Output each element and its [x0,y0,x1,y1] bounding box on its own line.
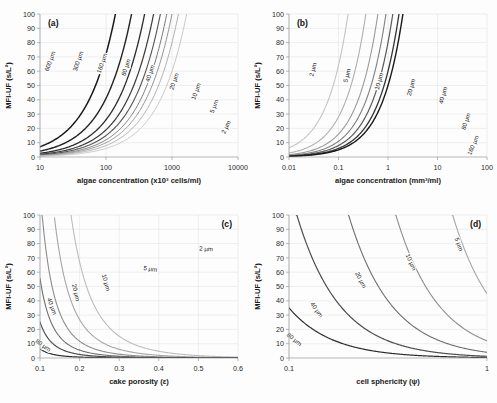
svg-text:20 µm: 20 µm [405,78,416,97]
y-tick-label: 10 [27,138,35,147]
curve-label-a-8: 2 µm2 µm [220,119,232,135]
y-tick-label: 30 [276,110,284,119]
x-axis-title: algae concentration (x10³ cells/ml) [77,176,202,185]
y-tick-label: 100 [23,211,35,220]
y-tick-label: 70 [27,254,35,263]
y-tick-label: 40 [27,296,35,305]
curve-group [40,8,188,156]
svg-text:2 µm: 2 µm [220,119,232,135]
y-tick-label: 20 [27,325,35,334]
y-tick-label: 0 [280,354,284,363]
x-tick-label: 10000 [228,163,248,172]
y-tick-label: 0 [31,153,35,162]
chart-panel-a: 600 µm600 µm300 µm300 µm160 µm160 µm80 µ… [0,0,248,201]
y-tick-label: 90 [27,225,35,234]
chart-a: 600 µm600 µm300 µm300 µm160 µm160 µm80 µ… [0,0,248,201]
y-tick-label: 60 [276,67,284,76]
x-axis-title: algae concentration (mm³/ml) [335,176,441,185]
y-axis-title: MFI-UF (s/L²) [4,263,13,310]
curve-label-b-5: 80 µm80 µm [460,112,472,131]
y-tick-label: 100 [272,211,284,220]
svg-text:10 µm: 10 µm [373,72,384,91]
svg-text:80 µm: 80 µm [120,58,132,77]
x-tick-label: 1000 [164,163,180,172]
svg-text:40 µm: 40 µm [309,300,325,318]
svg-text:5 µm: 5 µm [208,98,220,113]
curve-label-a-3: 80 µm80 µm [120,58,132,77]
x-tick-label: 1 [386,163,390,172]
x-tick-label: 0.5 [193,364,203,373]
curve-a-4 [40,10,161,154]
y-tick-label: 70 [276,254,284,263]
curve-label-b-4: 40 µm40 µm [437,86,448,105]
y-tick-label: 10 [27,339,35,348]
x-tick-label: 0.01 [282,163,296,172]
curve-label-a-1: 300 µm300 µm [71,50,84,72]
curve-label-c-1: 5 µm5 µm [143,264,158,273]
panel-letter-b: (b) [297,18,308,28]
y-tick-label: 50 [276,282,284,291]
curve-c-1 [55,218,238,358]
curve-b-1 [289,9,367,154]
y-tick-label: 30 [276,311,284,320]
curve-a-5 [40,12,167,155]
y-tick-label: 0 [280,153,284,162]
svg-text:5 µm: 5 µm [454,236,465,251]
curve-label-a-6: 10 µm10 µm [189,82,201,101]
curve-label-c-2: 10 µm10 µm [101,273,112,292]
y-tick-label: 50 [27,81,35,90]
x-tick-label: 100 [481,163,493,172]
curve-d-1 [395,215,487,341]
x-tick-label: 10 [36,163,44,172]
chart-panel-b: 2 µm2 µm5 µm5 µm10 µm10 µm20 µm20 µm40 µ… [249,0,497,201]
chart-panel-d: 5 µm5 µm10 µm10 µm20 µm20 µm40 µm40 µm80… [249,201,497,402]
y-tick-label: 100 [23,10,35,19]
y-tick-label: 90 [276,225,284,234]
curve-label-d-0: 5 µm5 µm [454,236,465,251]
y-tick-label: 80 [27,239,35,248]
chart-panel-c: 2 µm2 µm5 µm5 µm10 µm10 µm20 µm20 µm40 µ… [0,201,248,402]
svg-text:20 µm: 20 µm [71,283,82,301]
y-tick-label: 40 [276,95,284,104]
svg-text:2 µm: 2 µm [307,62,317,77]
curve-label-b-6: 160 µm160 µm [465,134,480,156]
y-axis-title: MFI-UF (s/L²) [253,263,262,310]
curve-label-a-0: 600 µm600 µm [43,50,57,72]
curve-label-b-2: 10 µm10 µm [373,72,384,91]
chart-d: 5 µm5 µm10 µm10 µm20 µm20 µm40 µm40 µm80… [249,201,497,402]
curve-c-4 [40,322,238,358]
svg-text:10 µm: 10 µm [101,273,112,292]
svg-text:10 µm: 10 µm [189,82,201,101]
y-tick-label: 40 [27,95,35,104]
curve-b-0 [289,12,348,148]
x-tick-label: 1 [485,364,489,373]
x-tick-label: 0.2 [75,364,85,373]
x-tick-label: 0.4 [154,364,164,373]
panel-letter-c: (c) [221,219,232,229]
x-axis-title: cell sphericity (ψ) [356,377,420,386]
y-tick-label: 40 [276,296,284,305]
svg-text:160 µm: 160 µm [465,134,480,156]
y-tick-label: 10 [276,339,284,348]
y-tick-label: 70 [27,53,35,62]
svg-text:160 µm: 160 µm [95,52,108,74]
y-tick-label: 50 [276,81,284,90]
svg-text:5 µm: 5 µm [143,264,158,273]
curve-label-b-3: 20 µm20 µm [405,78,416,97]
y-tick-label: 50 [27,282,35,291]
svg-text:600 µm: 600 µm [43,50,57,72]
y-tick-label: 30 [27,110,35,119]
x-tick-label: 0.1 [334,163,344,172]
y-tick-label: 80 [27,38,35,47]
y-tick-label: 60 [27,67,35,76]
curve-label-b-1: 5 µm5 µm [341,68,351,83]
panel-letter-a: (a) [48,18,59,28]
svg-text:20 µm: 20 µm [168,72,180,91]
y-tick-label: 0 [31,354,35,363]
y-axis-title: MFI-UF (s/L²) [253,62,262,109]
chart-c: 2 µm2 µm5 µm5 µm10 µm10 µm20 µm20 µm40 µ… [0,201,248,402]
curve-label-b-0: 2 µm2 µm [307,62,317,77]
curve-label-c-0: 2 µm2 µm [199,245,213,253]
x-tick-label: 0.6 [233,364,243,373]
y-tick-label: 90 [276,24,284,33]
